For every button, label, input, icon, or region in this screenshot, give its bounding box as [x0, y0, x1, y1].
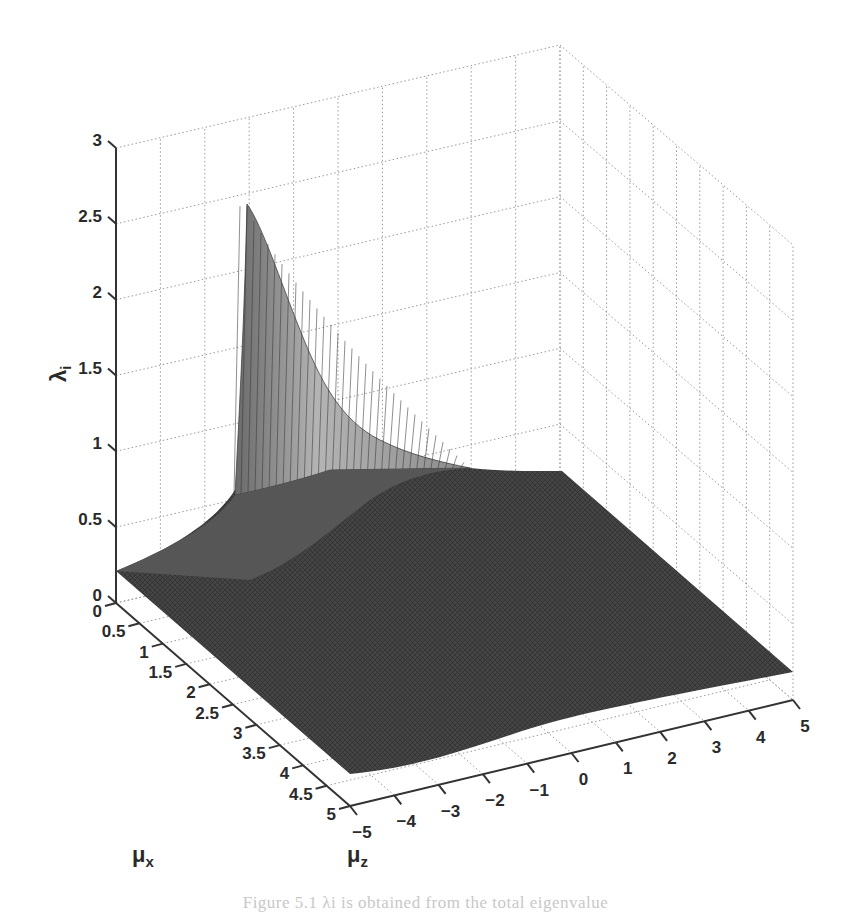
- y-tick-label: 3: [712, 738, 721, 757]
- z-tick-label: 1.5: [78, 359, 102, 378]
- z-tick-label: 1: [93, 434, 102, 453]
- x-tick-label: 4: [280, 764, 290, 783]
- y-tick-label: −4: [397, 812, 417, 831]
- y-tick-label: 5: [800, 717, 809, 736]
- y-axis-label: μz: [347, 842, 368, 870]
- x-tick-label: 3.5: [242, 744, 266, 763]
- y-tick-label: 2: [667, 749, 676, 768]
- y-tick-label: −1: [530, 781, 549, 800]
- y-tick-label: 1: [623, 759, 632, 778]
- x-tick-label: 1.5: [149, 663, 173, 682]
- z-axis-ticks: 00.511.522.53: [78, 131, 116, 605]
- x-tick-label: 5: [327, 805, 336, 824]
- z-tick-label: 3: [93, 131, 102, 150]
- y-tick-label: −3: [441, 802, 460, 821]
- x-tick-label: 0: [93, 602, 102, 621]
- x-tick-label: 4.5: [289, 785, 313, 804]
- z-tick-label: 0.5: [78, 510, 102, 529]
- surface: [116, 204, 793, 774]
- z-tick-label: 2.5: [78, 207, 102, 226]
- y-tick-label: 0: [579, 770, 588, 789]
- x-tick-label: 2.5: [195, 704, 219, 723]
- x-axis-label: μx: [132, 842, 154, 870]
- x-tick-label: 0.5: [102, 622, 126, 641]
- z-tick-label: 2: [93, 283, 102, 302]
- y-tick-label: 4: [756, 728, 766, 747]
- x-tick-label: 1: [139, 643, 148, 662]
- figure-caption: Figure 5.1 λi is obtained from the total…: [0, 893, 851, 912]
- y-tick-label: −5: [352, 823, 371, 842]
- x-tick-label: 2: [186, 683, 195, 702]
- surface-plot: 00.511.522.53 00.511.522.533.544.55 −5−4…: [0, 0, 851, 912]
- y-tick-label: −2: [485, 791, 504, 810]
- z-axis-label: λi: [46, 366, 74, 382]
- x-tick-label: 3: [233, 724, 242, 743]
